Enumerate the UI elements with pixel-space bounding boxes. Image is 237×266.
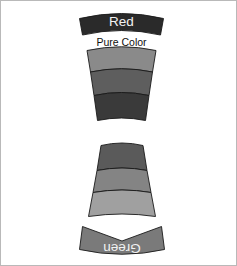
sector-red-label: Red: [109, 14, 134, 29]
sector-red-band-1: [87, 47, 156, 72]
sector-red: Red Pure Color: [80, 14, 164, 121]
sector-green: Green: [80, 143, 165, 256]
sector-red-band-3: [94, 93, 149, 121]
sector-green-band-2: [89, 190, 156, 217]
sector-green-label: Green: [103, 241, 141, 256]
figure-frame: Red Pure Color Green: [0, 0, 237, 266]
color-wedge-diagram: Red Pure Color Green: [1, 1, 237, 266]
sector-green-band-0: [97, 143, 147, 171]
sector-green-band-1: [93, 168, 151, 193]
sector-red-band-2: [91, 69, 153, 96]
